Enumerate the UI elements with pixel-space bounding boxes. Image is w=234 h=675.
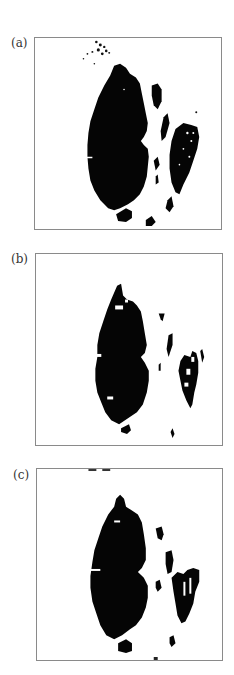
segmentation-mask-c	[37, 469, 222, 660]
panel-a-image	[34, 37, 222, 230]
panel-b-image	[35, 253, 223, 446]
segmentation-mask-b	[36, 254, 222, 445]
panel-label-c: (c)	[13, 468, 29, 482]
panel-label-a: (a)	[11, 36, 28, 50]
panel-c-image	[36, 468, 223, 661]
panel-label-b: (b)	[11, 252, 28, 266]
segmentation-mask-a	[35, 38, 221, 229]
